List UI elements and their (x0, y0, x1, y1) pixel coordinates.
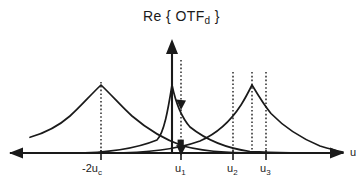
arrow-up-icon (166, 39, 178, 54)
figure-title-prefix: Re { OTF (143, 8, 205, 24)
tick-label-u3: u3 (260, 162, 271, 177)
figure-title: Re { OTFd } (0, 8, 363, 26)
tick-label-u2: u2 (227, 162, 238, 177)
otf-curves (30, 85, 343, 153)
sample-dot-marker (178, 140, 184, 146)
tick-label-neg2uc-base: -2u (82, 162, 98, 174)
otf-figure: Re { OTFd } (0, 0, 363, 194)
tick-label-u2-sub: 2 (233, 168, 237, 177)
arrow-right-icon (330, 148, 344, 159)
y-axis (166, 39, 178, 153)
curve-order-0 (40, 85, 343, 153)
u1-markers (176, 100, 186, 156)
x-axis (9, 148, 344, 159)
tick-label-neg2uc: -2uc (82, 162, 102, 177)
x-axis-label: u (350, 146, 356, 158)
tick-label-u1: u1 (175, 162, 186, 177)
dotted-guide-lines (101, 60, 266, 153)
curve-order-plus1 (110, 85, 343, 153)
x-axis-ticks (101, 150, 266, 160)
arrow-left-icon (9, 148, 23, 159)
tick-label-neg2uc-sub: c (98, 168, 102, 177)
tick-label-u3-sub: 3 (266, 168, 270, 177)
tick-label-u1-sub: 1 (181, 168, 185, 177)
figure-title-suffix: } (211, 8, 220, 24)
